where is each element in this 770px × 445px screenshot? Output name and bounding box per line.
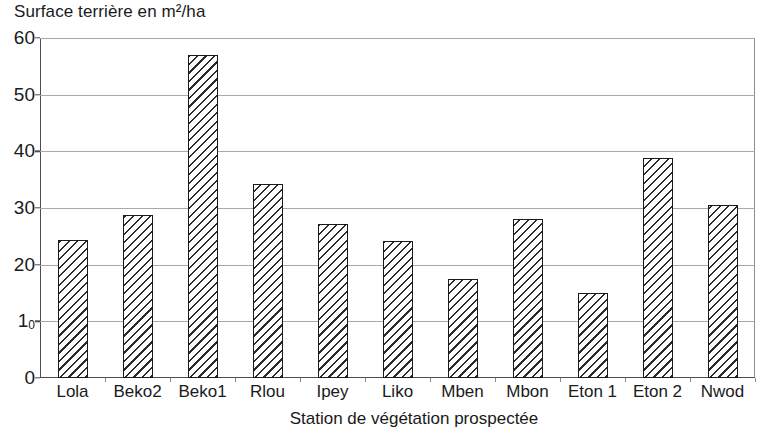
bar-chart: Surface terrière en m²/ha 0102030405060 … [0,0,770,445]
bar [188,55,218,378]
x-axis-tick-label: Beko1 [178,382,226,402]
x-axis-tick-label: Rlou [250,382,285,402]
x-axis-tick-label: Liko [382,382,413,402]
x-axis-title: Station de végétation prospectée [0,409,770,429]
x-axis-tick-mark [300,378,301,382]
y-axis-tick-label: 50 [14,84,35,106]
bar [253,184,283,378]
x-axis-tick-label: Mben [441,382,484,402]
x-axis-tick-mark [495,378,496,382]
x-axis-title-text: Station de végétation prospectée [232,409,539,428]
x-axis-tick-mark [690,378,691,382]
x-axis-tick-label: Beko2 [113,382,161,402]
bar [578,293,608,378]
y-axis-tick-label: 10 [18,310,35,332]
x-axis-tick-label: Ipey [316,382,348,402]
x-axis-tick-label: Eton 2 [633,382,682,402]
x-axis-tick-mark [365,378,366,382]
bar [643,158,673,378]
bar [58,240,88,378]
y-axis-tick-label: 20 [14,254,35,276]
y-axis-tick-label: 60 [14,27,35,49]
bar [383,241,413,378]
y-axis-tick-label: 0 [24,367,35,389]
bar [123,215,153,378]
x-axis-tick-label: Eton 1 [568,382,617,402]
x-axis-tick-mark [105,378,106,382]
x-axis-tick-mark [430,378,431,382]
chart-title: Surface terrière en m²/ha [14,2,205,22]
x-axis-tick-label: Mbon [506,382,549,402]
bar [708,205,738,378]
x-axis-tick-mark [755,378,756,382]
x-axis-tick-label: Nwod [701,382,744,402]
plot-area: 0102030405060 [40,38,755,378]
bar [318,224,348,378]
bars-layer [40,38,755,378]
x-axis-tick-label: Lola [56,382,88,402]
x-axis-tick-mark [170,378,171,382]
bar [448,279,478,378]
y-axis-tick-label: 40 [14,140,35,162]
x-axis-tick-mark [625,378,626,382]
x-axis-tick-mark [235,378,236,382]
y-axis-tick-label: 30 [14,197,35,219]
x-axis-tick-mark [560,378,561,382]
bar [513,219,543,378]
